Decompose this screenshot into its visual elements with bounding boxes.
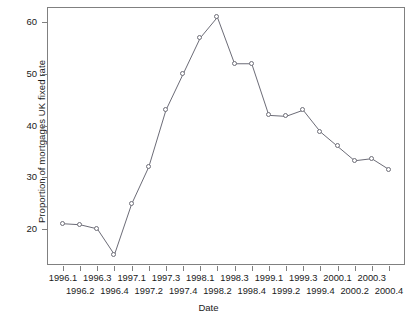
x-tick-mark	[286, 266, 287, 271]
data-point	[129, 201, 134, 206]
data-point	[335, 143, 340, 148]
y-tick-mark	[42, 126, 47, 127]
x-tick-mark	[200, 266, 201, 271]
x-tick-mark	[149, 266, 150, 271]
data-point	[232, 61, 237, 66]
data-point	[369, 156, 374, 161]
y-tick-label: 40	[11, 120, 37, 131]
x-tick-mark	[97, 266, 98, 271]
x-tick-mark	[235, 266, 236, 271]
x-tick-mark	[183, 266, 184, 271]
x-tick-mark	[252, 266, 253, 271]
data-point	[352, 158, 357, 163]
x-tick-label: 2000.4	[367, 286, 411, 296]
x-tick-mark	[80, 266, 81, 271]
y-tick-label: 20	[11, 223, 37, 234]
x-tick-mark	[166, 266, 167, 271]
x-tick-mark	[338, 266, 339, 271]
plot-area	[47, 7, 405, 265]
y-tick-label: 30	[11, 171, 37, 182]
data-point	[77, 222, 82, 227]
x-tick-mark	[63, 266, 64, 271]
x-tick-label: 2000.3	[350, 273, 394, 283]
data-point	[146, 164, 151, 169]
x-tick-mark	[132, 266, 133, 271]
x-tick-mark	[372, 266, 373, 271]
x-tick-mark	[303, 266, 304, 271]
x-tick-mark	[389, 266, 390, 271]
x-tick-mark	[355, 266, 356, 271]
data-point	[386, 167, 391, 172]
data-point	[60, 221, 65, 226]
y-tick-label: 60	[11, 16, 37, 27]
x-tick-mark	[320, 266, 321, 271]
chart-figure: Proportion of mortgages UK fixed rate Da…	[0, 0, 417, 323]
y-tick-mark	[42, 22, 47, 23]
data-point	[249, 61, 254, 66]
x-tick-mark	[114, 266, 115, 271]
x-tick-mark	[217, 266, 218, 271]
y-tick-mark	[42, 74, 47, 75]
y-tick-mark	[42, 177, 47, 178]
x-axis-label: Date	[0, 302, 417, 313]
y-tick-label: 50	[11, 68, 37, 79]
x-tick-mark	[269, 266, 270, 271]
y-tick-mark	[42, 229, 47, 230]
